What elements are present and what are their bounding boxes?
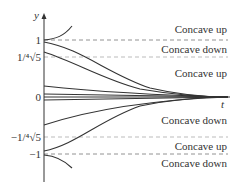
curve-below-neg1 xyxy=(44,155,72,168)
region-label-concave-down-upper: Concave down xyxy=(161,43,227,55)
region-label-concave-up-lower: Concave up xyxy=(175,140,227,152)
y-axis-label: y xyxy=(34,9,39,21)
region-label-concave-up-upper-mid: Concave up xyxy=(175,67,227,79)
tick-label-neg-inv-root5: −1/⁴√5 xyxy=(11,131,41,143)
tick-label-1: 1 xyxy=(36,34,42,46)
region-label-concave-down-lower-mid: Concave down xyxy=(161,114,227,126)
region-label-concave-down-bottom: Concave down xyxy=(161,157,227,169)
y-axis-arrow-icon xyxy=(42,13,47,19)
curve-above-1 xyxy=(44,26,72,40)
region-label-concave-up-top: Concave up xyxy=(175,23,227,35)
tick-label-neg1: −1 xyxy=(29,148,41,160)
tick-label-inv-root5: 1/⁴√5 xyxy=(17,51,41,63)
t-axis-label: t xyxy=(221,98,224,110)
tick-label-0: 0 xyxy=(36,91,42,103)
